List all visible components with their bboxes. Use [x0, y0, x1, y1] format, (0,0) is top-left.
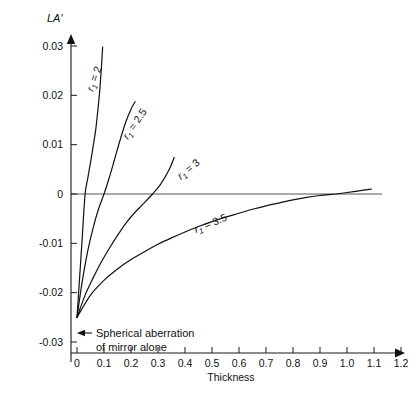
x-tick-label: 0.6 [232, 357, 247, 369]
chart-svg: 00.10.20.30.40.50.60.70.80.91.01.11.2 0.… [0, 0, 419, 408]
x-tick-label: 0.9 [313, 357, 328, 369]
y-tick-label: 0.02 [43, 89, 64, 101]
annotation-line-1: Spherical aberration [96, 327, 194, 339]
x-tick-label: 1.1 [367, 357, 382, 369]
y-tick-label: 0.01 [43, 138, 64, 150]
x-tick-label: 0.3 [151, 357, 166, 369]
x-tick-label: 0.8 [286, 357, 301, 369]
x-tick-label: 0.5 [205, 357, 220, 369]
x-tick-label: 0.2 [124, 357, 139, 369]
x-tick-label: 1.2 [394, 357, 409, 369]
x-tick-label: 0.4 [178, 357, 193, 369]
x-tick-label: 0.7 [259, 357, 274, 369]
y-axis-title: LA′ [47, 12, 63, 24]
x-tick-label: 0.1 [97, 357, 112, 369]
y-tick-label: 0.03 [43, 40, 64, 52]
y-tick-label: 0 [57, 188, 63, 200]
x-axis-title: Thickness [207, 371, 254, 383]
y-tick-label: -0.03 [39, 336, 63, 348]
spherical-aberration-chart: 00.10.20.30.40.50.60.70.80.91.01.11.2 0.… [0, 0, 419, 408]
y-tick-label: -0.01 [39, 237, 63, 249]
x-tick-label: 0 [74, 357, 80, 369]
annotation-line-2: of mirror alone [96, 341, 167, 353]
x-tick-label: 1.0 [340, 357, 355, 369]
y-tick-label: -0.02 [39, 286, 63, 298]
